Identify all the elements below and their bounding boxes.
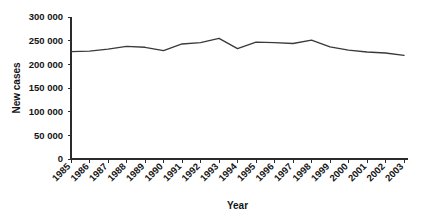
x-tick-label: 1994 — [216, 160, 239, 183]
x-tick-label: 1993 — [198, 161, 221, 184]
y-tick-label: 100 000 — [29, 106, 63, 117]
x-axis-title: Year — [227, 200, 248, 211]
x-tick-label: 1992 — [179, 161, 202, 184]
x-tick-label: 2000 — [327, 161, 350, 184]
data-series-new-cases — [71, 38, 404, 55]
x-tick-label: 2003 — [383, 161, 406, 184]
x-tick-label: 1997 — [272, 161, 295, 184]
y-tick-label: 300 000 — [29, 11, 63, 22]
x-tick-label: 1990 — [142, 161, 165, 184]
y-tick-label: 50 000 — [34, 130, 63, 141]
chart-container: 050 000100 000150 000200 000250 000300 0… — [0, 0, 423, 215]
x-tick-label: 1998 — [290, 161, 313, 184]
x-tick-label: 2001 — [346, 160, 369, 183]
y-axis-tick-labels: 050 000100 000150 000200 000250 000300 0… — [29, 11, 63, 164]
x-tick-label: 1989 — [124, 161, 147, 184]
x-tick-label: 1987 — [87, 161, 110, 184]
x-tick-label: 2002 — [364, 161, 387, 184]
x-tick-label: 1996 — [253, 161, 276, 184]
x-tick-label: 1985 — [50, 160, 73, 183]
x-tick-label: 1988 — [105, 161, 128, 184]
y-tick-label: 150 000 — [29, 82, 63, 93]
x-axis-tick-labels: 1985198619871988198919901991199219931994… — [50, 160, 406, 183]
y-tick-label: 250 000 — [29, 35, 63, 46]
x-tick-label: 1986 — [68, 161, 91, 184]
y-tick-label: 200 000 — [29, 59, 63, 70]
x-tick-label: 1999 — [309, 161, 332, 184]
x-tick-label: 1995 — [235, 160, 258, 183]
line-chart: 050 000100 000150 000200 000250 000300 0… — [0, 0, 423, 215]
y-axis-title: New cases — [11, 62, 22, 114]
x-tick-label: 1991 — [161, 160, 184, 183]
